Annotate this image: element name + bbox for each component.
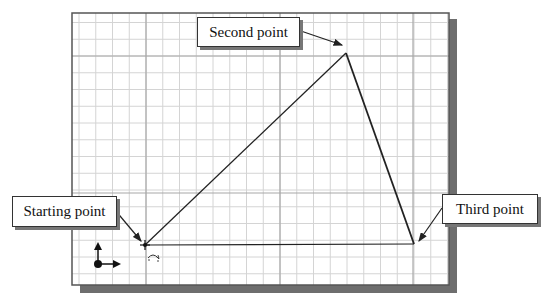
callout-starting-point: Starting point: [12, 196, 117, 227]
callout-label: Third point: [456, 201, 524, 218]
callout-third-point: Third point: [442, 194, 538, 224]
callout-label: Starting point: [23, 203, 105, 220]
callout-label: Second point: [209, 24, 288, 41]
sketch-diagram: Second point Starting point Third point: [0, 0, 549, 302]
callout-second-point: Second point: [197, 17, 300, 47]
